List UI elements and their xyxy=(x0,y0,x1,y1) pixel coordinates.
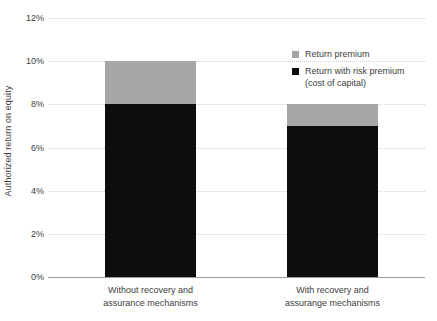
stacked-bar-chart: Authorized return on equity 0%2%4%6%8%10… xyxy=(0,0,437,321)
y-axis-title-text: Authorized return on equity xyxy=(3,86,13,197)
legend-swatch-icon xyxy=(292,51,299,58)
x-axis-tick-label: Without recovery and assurance mechanism… xyxy=(71,284,231,309)
y-axis-tick-label: 6% xyxy=(14,143,44,153)
chart-legend: Return premiumReturn with risk premium (… xyxy=(292,48,437,94)
y-axis-tick-label: 12% xyxy=(14,13,44,23)
legend-item[interactable]: Return premium xyxy=(292,48,437,60)
bar-segment[interactable] xyxy=(105,104,196,277)
legend-item-label: Return premium xyxy=(305,48,370,60)
gridline xyxy=(48,277,425,278)
legend-item[interactable]: Return with risk premium (cost of capita… xyxy=(292,65,437,89)
bar-segment[interactable] xyxy=(287,126,378,277)
bar-segment[interactable] xyxy=(287,104,378,126)
bar-group[interactable] xyxy=(105,18,196,277)
legend-swatch-icon xyxy=(292,68,299,75)
y-axis-tick-label: 10% xyxy=(14,56,44,66)
y-axis-tick-label: 2% xyxy=(14,229,44,239)
legend-item-label: Return with risk premium (cost of capita… xyxy=(305,65,405,89)
y-axis-tick-label: 4% xyxy=(14,186,44,196)
bar-segment[interactable] xyxy=(105,61,196,104)
y-axis-title: Authorized return on equity xyxy=(0,0,16,282)
x-axis-tick-label: With recovery and assurange mechanisms xyxy=(253,284,413,309)
y-axis-tick-label: 8% xyxy=(14,99,44,109)
y-axis-tick-label: 0% xyxy=(14,272,44,282)
